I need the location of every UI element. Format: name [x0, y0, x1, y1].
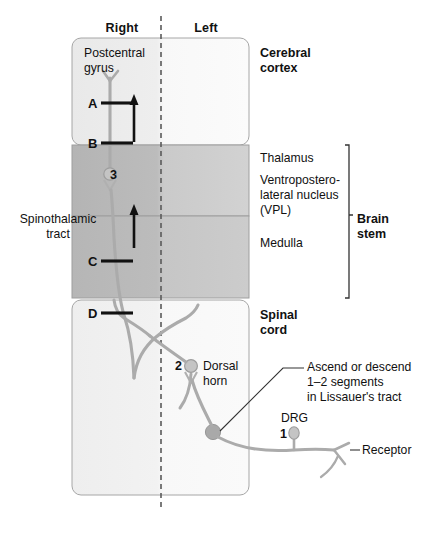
receptor-label: Receptor: [362, 443, 411, 458]
spinothalamic-tract-diagram: Right Left Postcentral gyrus Cerebral co…: [0, 0, 427, 535]
lissauer-label-line1: Ascend or descend: [307, 360, 411, 375]
neuron-3-number: 3: [110, 168, 117, 183]
marker-B-label: B: [88, 136, 97, 151]
neuron-1-number: 1: [280, 427, 287, 442]
vpl-label-line2: lateral nucleus: [260, 188, 339, 203]
cerebral-cortex-label: Cerebral cortex: [260, 46, 311, 75]
brain-stem-bracket: [345, 145, 353, 298]
brain-stem-label: Brain stem: [357, 212, 389, 241]
dorsal-horn-label: Dorsal horn: [203, 359, 238, 389]
lissauer-label-line2: 1–2 segments: [307, 375, 384, 390]
neuron-2-number: 2: [175, 359, 182, 374]
lissauer-label-line3: in Lissauer's tract: [307, 390, 401, 405]
marker-D-label: D: [88, 306, 97, 321]
spinal-cord-label: Spinal cord: [260, 308, 298, 337]
vpl-label-line3: (VPL): [260, 203, 291, 218]
thalamus-label: Thalamus: [260, 151, 314, 166]
vpl-label-line1: Ventropostero-: [260, 173, 340, 188]
header-right: Right: [88, 21, 156, 36]
receptor-ending-upper: [334, 443, 349, 450]
receptor-ending-tail: [321, 456, 338, 477]
marker-C-label: C: [88, 254, 97, 269]
drg-label: DRG: [281, 411, 308, 426]
postcentral-gyrus-label: Postcentral gyrus: [84, 46, 145, 76]
spinothalamic-tract-label: Spinothalamic tract: [10, 212, 106, 242]
header-left: Left: [172, 21, 240, 36]
marker-A-label: A: [88, 96, 97, 111]
medulla-label: Medulla: [260, 236, 303, 251]
neuron-1-soma-drg: [289, 427, 299, 439]
